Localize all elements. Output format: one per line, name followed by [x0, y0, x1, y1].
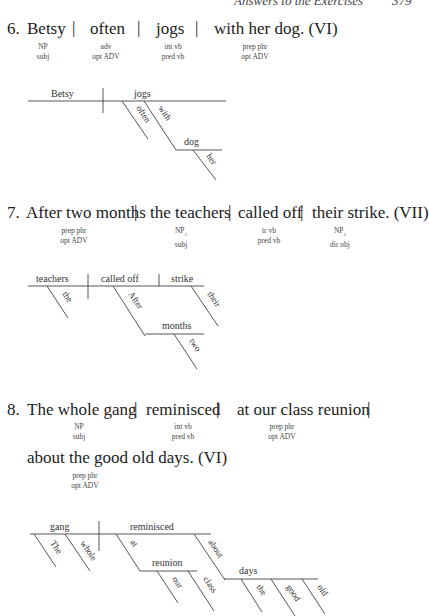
svg-text:After: After	[126, 290, 145, 311]
svg-text:strike: strike	[171, 273, 194, 284]
svg-text:The: The	[48, 539, 64, 556]
svg-text:months: months	[162, 320, 192, 331]
svg-text:the: the	[254, 583, 268, 598]
svg-text:jogs: jogs	[133, 88, 151, 99]
svg-text:reunion: reunion	[152, 557, 183, 568]
svg-text:class: class	[201, 575, 219, 596]
diagram-7: teachers called off strike the After mon…	[28, 273, 223, 369]
svg-text:good: good	[284, 583, 303, 604]
svg-text:days: days	[239, 565, 257, 576]
svg-text:two: two	[187, 337, 203, 354]
svg-text:reminisced: reminisced	[130, 521, 174, 532]
svg-text:Betsy: Betsy	[51, 88, 74, 99]
diagram-8: gang reminisced The whole at reunion our…	[30, 521, 330, 616]
svg-text:gang: gang	[50, 521, 69, 532]
svg-text:with: with	[156, 104, 174, 123]
svg-text:teachers: teachers	[36, 273, 69, 284]
svg-text:her: her	[204, 152, 219, 167]
svg-text:dog: dog	[184, 136, 199, 147]
svg-text:called off: called off	[101, 273, 140, 284]
svg-text:their: their	[205, 290, 223, 309]
svg-text:old: old	[315, 583, 330, 599]
diagram-6: Betsy jogs often with dog her	[28, 88, 226, 180]
svg-text:often: often	[134, 104, 153, 125]
svg-text:at: at	[128, 538, 140, 549]
svg-text:the: the	[60, 290, 74, 305]
svg-text:our: our	[170, 575, 185, 591]
